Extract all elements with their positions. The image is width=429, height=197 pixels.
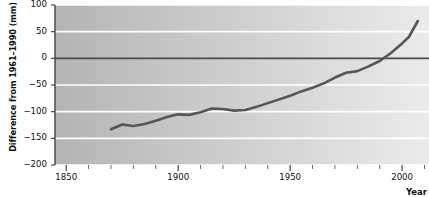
- x-axis-ticks: [66, 165, 424, 171]
- sea-level-chart: Difference from 1961–1990 (mm) Year 100 …: [0, 0, 429, 197]
- plot-area: [0, 0, 429, 197]
